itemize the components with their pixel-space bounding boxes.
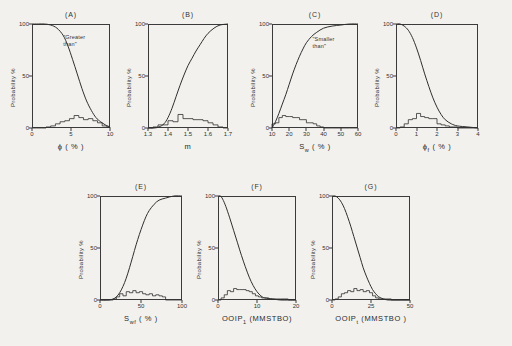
frequency-histogram: [100, 291, 182, 300]
cumulative-curve: [32, 24, 110, 127]
panel-d: (D)Probability %10050001234ϕf ( % ): [396, 24, 478, 128]
plot-area: [332, 196, 410, 300]
y-tick-label: 100: [383, 21, 393, 27]
x-tick-label: 10: [254, 303, 261, 309]
y-tick-label: 100: [19, 21, 29, 27]
y-tick-label: 50: [22, 73, 29, 79]
x-tick-label: 0: [394, 131, 397, 137]
frequency-histogram: [332, 289, 410, 300]
panel-title: (E): [100, 183, 182, 190]
y-tick-label: 100: [259, 21, 269, 27]
plot-area: [218, 196, 296, 300]
y-tick-label: 50: [138, 73, 145, 79]
y-tick-label: 50: [386, 73, 393, 79]
panel-e: (E)Probability %100500050100Swf ( % ): [100, 196, 182, 300]
panel-f: (F)Probability %10050001020OOIP1 (MMSTBO…: [218, 196, 296, 300]
x-axis-label: ϕf ( % ): [396, 142, 478, 153]
panel-g: (G)Probability %10050002550OOIPt (MMSTBO…: [332, 196, 410, 300]
cumulative-curve: [396, 24, 478, 128]
x-tick-label: 100: [177, 303, 187, 309]
x-axis-label: Sw ( % ): [272, 142, 358, 153]
y-tick-label: 50: [90, 245, 97, 251]
x-tick-label: 1.7: [224, 131, 232, 137]
y-axis-label: Probability %: [374, 68, 380, 107]
y-axis-label: Probability %: [10, 68, 16, 107]
y-tick-label: 0: [326, 297, 329, 303]
x-tick-label: 10: [269, 131, 276, 137]
y-axis-label: Probability %: [310, 240, 316, 279]
x-tick-label: 0: [330, 303, 333, 309]
x-tick-label: 1.6: [204, 131, 212, 137]
plot-area: [272, 24, 358, 128]
x-axis-label: ϕ ( % ): [32, 142, 110, 151]
x-tick-label: 40: [320, 131, 327, 137]
y-tick-label: 100: [87, 193, 97, 199]
y-tick-label: 50: [262, 73, 269, 79]
y-axis-label: Probability %: [250, 68, 256, 107]
plot-area: [32, 24, 110, 128]
panel-title: (F): [218, 183, 296, 190]
cumulative-curve: [218, 196, 296, 300]
panel-a: (A)Probability %1005000510ϕ ( % )"Greate…: [32, 24, 110, 128]
y-tick-label: 0: [26, 125, 29, 131]
y-tick-label: 50: [208, 245, 215, 251]
x-tick-label: 3: [456, 131, 459, 137]
x-tick-label: 50: [407, 303, 414, 309]
x-tick-label: 50: [337, 131, 344, 137]
x-axis-label: Swf ( % ): [100, 314, 182, 325]
x-tick-label: 20: [286, 131, 293, 137]
y-tick-label: 100: [205, 193, 215, 199]
frequency-histogram: [218, 289, 296, 300]
y-axis-label: Probability %: [78, 240, 84, 279]
cumulative-curve: [272, 24, 358, 128]
y-axis-label: Probability %: [126, 68, 132, 107]
cumulative-curve: [148, 24, 228, 128]
cumulative-curve: [332, 196, 410, 300]
y-tick-label: 0: [390, 125, 393, 131]
y-tick-label: 0: [212, 297, 215, 303]
x-tick-label: 0: [216, 303, 219, 309]
y-tick-label: 100: [319, 193, 329, 199]
x-tick-label: 2: [435, 131, 438, 137]
y-tick-label: 50: [322, 245, 329, 251]
x-tick-label: 1.3: [144, 131, 152, 137]
x-tick-label: 1: [415, 131, 418, 137]
x-tick-label: 5: [69, 131, 72, 137]
x-tick-label: 20: [293, 303, 300, 309]
figure-canvas: (A)Probability %1005000510ϕ ( % )"Greate…: [0, 0, 512, 346]
frequency-histogram: [32, 116, 110, 128]
cumulative-curve: [100, 196, 182, 300]
plot-area: [100, 196, 182, 300]
x-tick-label: 0: [98, 303, 101, 309]
panel-title: (D): [396, 11, 478, 18]
x-tick-label: 10: [107, 131, 114, 137]
frequency-histogram: [272, 116, 358, 128]
panel-title: (C): [272, 11, 358, 18]
x-tick-label: 25: [368, 303, 375, 309]
plot-area: [148, 24, 228, 128]
x-tick-label: 60: [355, 131, 362, 137]
y-tick-label: 100: [135, 21, 145, 27]
x-tick-label: 4: [476, 131, 479, 137]
panel-title: (G): [332, 183, 410, 190]
x-tick-label: 30: [303, 131, 310, 137]
panel-title: (A): [32, 11, 110, 18]
panel-c: (C)Probability %100500102030405060Sw ( %…: [272, 24, 358, 128]
y-axis-label: Probability %: [196, 240, 202, 279]
x-axis-label: OOIPt (MMSTBO ): [332, 314, 410, 325]
x-axis-label: m: [148, 142, 228, 151]
x-tick-label: 1.4: [164, 131, 172, 137]
x-tick-label: 1.5: [184, 131, 192, 137]
frequency-histogram: [396, 113, 478, 128]
x-axis-label: OOIP1 (MMSTBO): [218, 314, 296, 325]
y-tick-label: 0: [94, 297, 97, 303]
panel-title: (B): [148, 11, 228, 18]
x-tick-label: 0: [30, 131, 33, 137]
panel-b: (B)Probability %1005001.31.41.51.61.7m: [148, 24, 228, 128]
x-tick-label: 50: [138, 303, 145, 309]
plot-area: [396, 24, 478, 128]
